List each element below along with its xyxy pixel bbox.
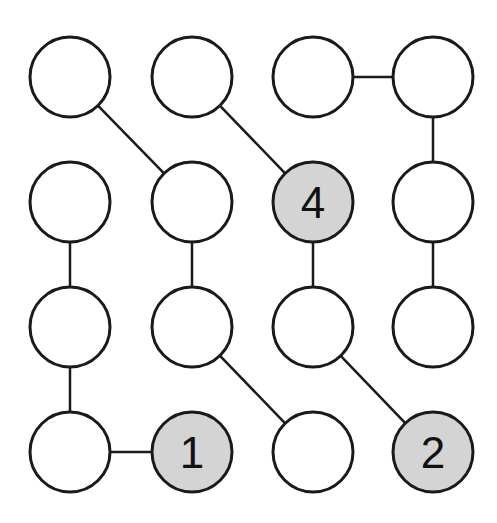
empty-circle (393, 287, 473, 367)
node-label: 2 (421, 428, 445, 477)
node-label: 1 (180, 428, 204, 477)
empty-circle (393, 37, 473, 117)
node-r1c3 (273, 37, 353, 117)
node-r4c1 (30, 412, 110, 492)
empty-circle (152, 287, 232, 367)
empty-circle (30, 412, 110, 492)
empty-circle (273, 37, 353, 117)
node-r2c2 (152, 162, 232, 242)
node-r2c4 (393, 162, 473, 242)
nodes-layer: 412 (30, 37, 473, 492)
node-label: 4 (301, 178, 325, 227)
empty-circle (30, 37, 110, 117)
node-r1c2 (152, 37, 232, 117)
edge-r3c2-r4c3 (220, 356, 285, 424)
node-r1c4 (393, 37, 473, 117)
node-r4c4: 2 (393, 412, 473, 492)
empty-circle (152, 162, 232, 242)
edge-r1c2-r2c3 (220, 106, 285, 174)
node-r1c1 (30, 37, 110, 117)
edge-r1c1-r2c2 (98, 106, 164, 174)
node-r2c3: 4 (273, 162, 353, 242)
node-r3c1 (30, 287, 110, 367)
node-r4c3 (273, 412, 353, 492)
empty-circle (30, 162, 110, 242)
node-r3c2 (152, 287, 232, 367)
empty-circle (30, 287, 110, 367)
edge-r3c3-r4c4 (341, 356, 406, 423)
graph-diagram: 412 (0, 0, 497, 523)
empty-circle (273, 412, 353, 492)
node-r2c1 (30, 162, 110, 242)
node-r3c4 (393, 287, 473, 367)
empty-circle (273, 287, 353, 367)
node-r3c3 (273, 287, 353, 367)
empty-circle (393, 162, 473, 242)
empty-circle (152, 37, 232, 117)
node-r4c2: 1 (152, 412, 232, 492)
edges-layer (70, 77, 433, 452)
